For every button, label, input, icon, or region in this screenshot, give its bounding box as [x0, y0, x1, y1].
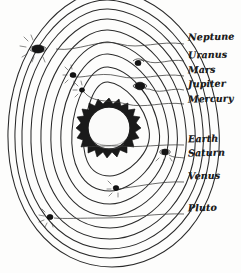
label-mars: Mars [188, 65, 216, 75]
label-jupiter: Jupiter [188, 79, 226, 89]
solar-system-diagram: Neptune Uranus Mars Jupiter Mercury Eart… [0, 0, 241, 273]
label-saturn: Saturn [188, 148, 225, 158]
label-uranus: Uranus [188, 50, 227, 60]
label-layer: Neptune Uranus Mars Jupiter Mercury Eart… [0, 0, 241, 273]
label-venus: Venus [188, 171, 220, 181]
label-neptune: Neptune [188, 32, 235, 42]
label-mercury: Mercury [188, 94, 234, 104]
label-earth: Earth [188, 134, 218, 144]
label-pluto: Pluto [188, 203, 217, 213]
